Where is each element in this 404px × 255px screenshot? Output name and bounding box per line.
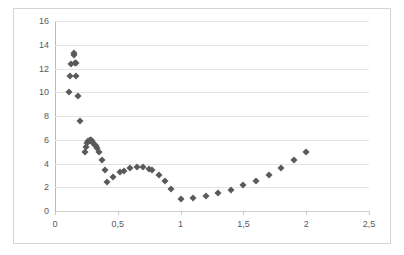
data-point: [74, 92, 81, 99]
data-point: [161, 178, 168, 185]
gridline-y: [55, 116, 369, 117]
x-axis-tick-label: 2: [304, 220, 309, 229]
y-axis-tick-label: 2: [44, 183, 49, 192]
gridline-y: [55, 211, 369, 212]
y-axis-tick-label: 6: [44, 135, 49, 144]
y-axis-tick-label: 10: [39, 88, 49, 97]
x-axis-tick-mark: [243, 211, 244, 215]
x-axis-tick-mark: [369, 211, 370, 215]
data-point: [278, 165, 285, 172]
gridline-y: [55, 187, 369, 188]
data-point: [77, 118, 84, 125]
data-point: [252, 177, 259, 184]
x-axis-tick-label: 1,5: [237, 220, 250, 229]
data-point: [202, 192, 209, 199]
data-point: [190, 194, 197, 201]
plot-wrapper: 0246810121416 00,511,522,5: [14, 9, 390, 243]
data-point: [149, 166, 156, 173]
y-axis-tick-label: 4: [44, 159, 49, 168]
x-axis-tick-mark: [55, 211, 56, 215]
data-point: [215, 190, 222, 197]
data-point: [95, 148, 102, 155]
x-axis-tick-label: 2,5: [363, 220, 376, 229]
data-point: [65, 89, 72, 96]
data-point: [290, 156, 297, 163]
gridline-y: [55, 69, 369, 70]
data-point: [102, 166, 109, 173]
x-axis-tick-label: 0,5: [112, 220, 125, 229]
data-point: [265, 171, 272, 178]
y-axis-tick-label: 12: [39, 64, 49, 73]
y-axis-tick-label: 0: [44, 207, 49, 216]
x-axis-tick-mark: [181, 211, 182, 215]
x-axis-tick-mark: [118, 211, 119, 215]
data-point: [73, 73, 80, 80]
gridline-y: [55, 140, 369, 141]
x-axis-tick-label: 1: [178, 220, 183, 229]
data-point: [104, 178, 111, 185]
gridline-y: [55, 21, 369, 22]
data-point: [99, 156, 106, 163]
data-point: [155, 171, 162, 178]
chart-frame: 0246810121416 00,511,522,5: [13, 8, 391, 244]
y-axis-tick-label: 14: [39, 40, 49, 49]
plot-area: 0246810121416 00,511,522,5: [55, 21, 369, 211]
gridline-y: [55, 164, 369, 165]
x-axis-tick-mark: [306, 211, 307, 215]
y-axis-tick-label: 8: [44, 112, 49, 121]
x-axis-tick-label: 0: [52, 220, 57, 229]
gridline-y: [55, 45, 369, 46]
gridline-y: [55, 92, 369, 93]
data-point: [303, 148, 310, 155]
y-axis-tick-label: 16: [39, 17, 49, 26]
data-point: [177, 196, 184, 203]
data-point: [110, 173, 117, 180]
